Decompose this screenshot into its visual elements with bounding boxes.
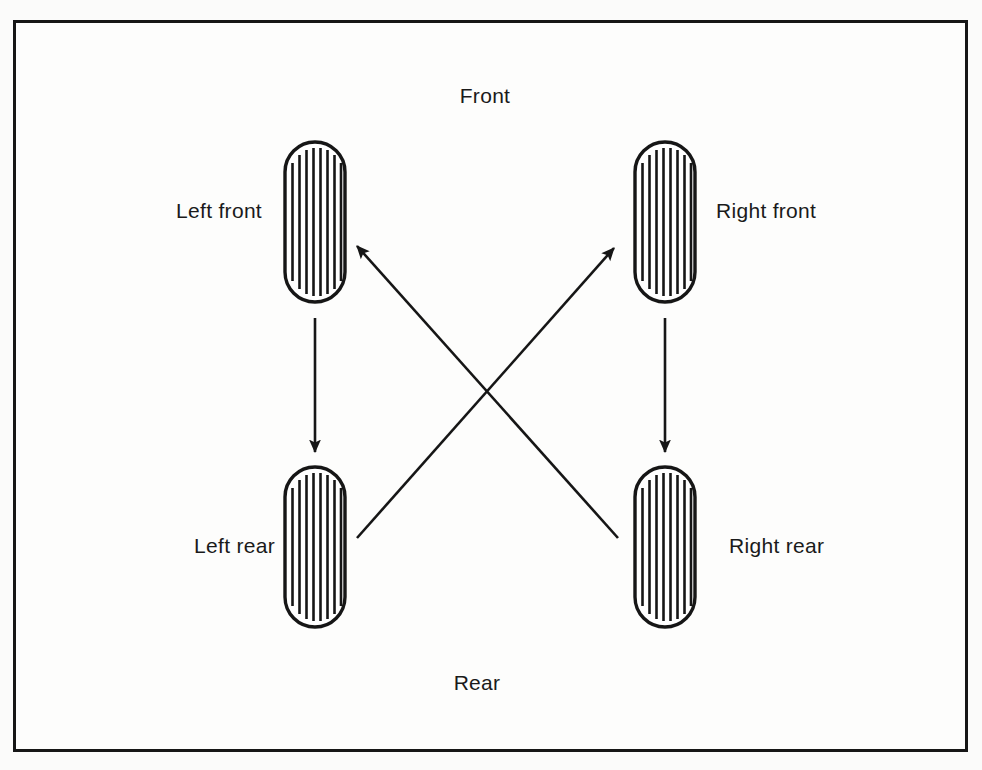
label-rear: Rear [454,671,501,695]
wheel-left-front [285,142,345,302]
arrow-left-rear-to-right-front [357,248,614,538]
tire-rotation-diagram [0,0,982,770]
tire-outline-left-rear [285,467,345,627]
label-left-rear: Left rear [194,534,275,558]
tire-outline-right-front [635,142,695,302]
tire-outline-right-rear [635,467,695,627]
label-front: Front [460,84,511,108]
tire-outline-left-front [285,142,345,302]
label-left-front: Left front [176,199,262,223]
diagram-page: Front Rear Left front Left rear Right fr… [0,0,982,770]
label-right-rear: Right rear [729,534,824,558]
wheel-left-rear [285,467,345,627]
wheel-right-front [635,142,695,302]
wheel-right-rear [635,467,695,627]
label-right-front: Right front [716,199,816,223]
